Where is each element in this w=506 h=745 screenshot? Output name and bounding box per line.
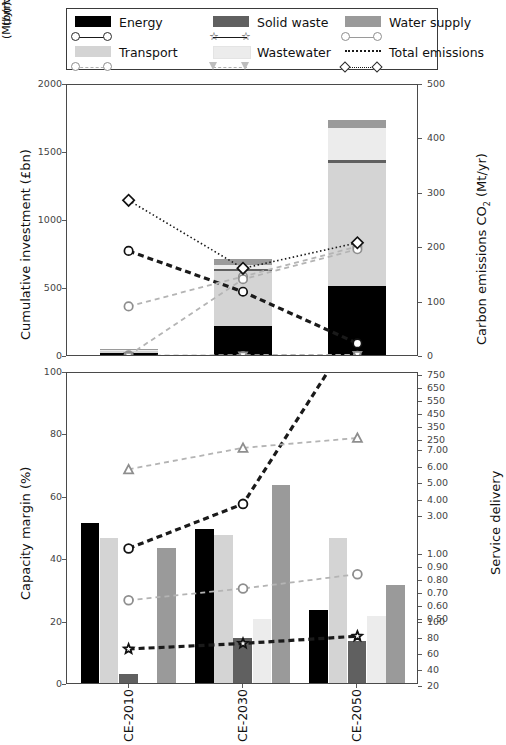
bottom-y2tick-label: 0.80 [427,574,448,585]
bottom-y2tick-label: 6.00 [427,461,448,472]
bottom-y2tick-label: 80 [427,632,439,643]
top-y2label: Carbon emissions CO2 (Mt/yr) [474,153,492,345]
top-marker-circle [124,247,132,255]
bottom-y2tick-mark [418,619,422,620]
legend-line-energy [71,32,115,42]
bottom-marker-circle-gray [239,584,248,593]
bottom-line-energy-delivery [129,373,358,548]
bottom-y2tick-label: 1.00 [427,548,448,559]
top-marker-circle-gray [124,302,132,310]
top-y2tick-label: 100 [427,296,445,307]
bottom-ytick-label: 20 [34,616,62,627]
triangle-glyph [209,62,217,70]
legend-label-wastewater: Wastewater [257,45,331,60]
bottom-marker-circle-gray [124,596,133,605]
top-ytick-label: 500 [32,282,62,293]
x-tick-mark [242,684,243,688]
bottom-y2-unit-label: (Mt/yr) [0,0,13,39]
top-y2tick-label: 500 [427,78,445,89]
bottom-y2tick-mark [418,593,422,594]
bottom-y2label: Service delivery [488,471,503,575]
legend-label-water-supply: Water supply [389,15,471,30]
top-ytick-label: 0 [32,350,62,361]
bottom-y2tick-label: 650 [427,382,445,393]
bottom-y2tick-mark [418,638,422,639]
legend-label-energy: Energy [119,15,163,30]
bottom-y2tick-mark [418,580,422,581]
legend-label-solid-waste: Solid waste [257,15,328,30]
bottom-marker-star [124,644,134,653]
bottom-marker-circle [239,500,248,509]
bottom-marker-star [238,638,248,647]
legend-swatch-solid-waste [213,16,249,27]
bottom-y2tick-mark [418,516,422,517]
top-ylabel: Cumulative investment (£bn) [18,149,33,340]
bottom-ytick-label: 60 [34,491,62,502]
bottom-line-overlay [67,373,417,683]
triangle-glyph [241,62,249,70]
bottom-y2tick-mark [418,606,422,607]
top-y2tick-mark [418,247,422,248]
bottom-y2tick-label: 4.00 [427,494,448,505]
top-marker-circle-gray [239,275,247,283]
legend-swatch-total-emissions [345,50,381,52]
top-y2tick-label: 300 [427,187,445,198]
legend-line-water-supply [341,32,385,42]
legend-swatch-energy [75,16,111,27]
legend-swatch-water-supply [345,16,381,27]
top-y2tick-mark [418,193,422,194]
bottom-y2tick-mark [418,467,422,468]
legend-marker-left [71,32,80,41]
bottom-y2tick-label: 60 [427,648,439,659]
bottom-y2tick-label: 100 [427,616,445,627]
bottom-y2tick-label: 0.60 [427,600,448,611]
legend-marker-left [209,62,218,71]
top-ytick-label: 1500 [32,146,62,157]
x-tick-mark [356,684,357,688]
bottom-marker-circle-gray [353,570,362,579]
legend-marker-left [339,61,350,72]
top-marker-circle [353,339,361,347]
bottom-y2tick-label: 0.70 [427,587,448,598]
top-ytick-label: 2000 [32,78,62,89]
bottom-ytick-label: 0 [34,678,62,689]
legend-label-total-emissions: Total emissions [389,45,484,60]
bottom-marker-star [353,631,363,640]
top-marker-diamond [237,263,248,274]
top-marker-triangle-down [353,352,361,355]
bottom-y2tick-mark [418,686,422,687]
legend-marker-right [103,32,112,41]
top-y2tick-label: 0 [427,350,433,361]
legend-swatch-wastewater [213,46,251,59]
x-tick-label-CE-2030: CE-2030 [235,689,250,742]
legend-line-total-emissions [341,62,385,72]
bottom-y2tick-mark [418,554,422,555]
bottom-y2tick-mark [418,622,422,623]
bottom-y2tick-label: 550 [427,395,445,406]
legend-label-transport: Transport [119,45,178,60]
x-tick-label-CE-2050: CE-2050 [349,689,364,742]
top-marker-circle [239,288,247,296]
legend-marker-right [373,32,382,41]
top-marker-diamond [123,195,134,206]
bottom-y2tick-mark [418,388,422,389]
x-tick-label-CE-2010: CE-2010 [121,689,136,742]
bottom-y2tick-label: 3.00 [427,510,448,521]
top-chart-plot [66,84,418,356]
bottom-y2tick-label: 0.90 [427,561,448,572]
bottom-ytick-mark [62,684,66,685]
bottom-y2tick-mark [418,450,422,451]
legend-marker-right [103,62,112,71]
bottom-marker-triangle-up [353,433,362,442]
top-line-overlay [67,85,417,355]
bottom-y2-units: (mn MWh/yr)(mn ML/yr)(bn Vkm/yr)(Mt/yr) [0,0,72,52]
legend: EnergySolid waste☆☆Water supplyTransport… [66,8,438,70]
top-marker-triangle-down [239,352,247,355]
bottom-chart-plot [66,372,418,684]
bottom-y2tick-mark [418,440,422,441]
bottom-y2tick-label: 20 [427,680,439,691]
legend-marker-left [71,62,80,71]
bottom-y2tick-mark [418,567,422,568]
legend-swatch-transport [75,46,111,57]
bottom-y2tick-mark [418,414,422,415]
